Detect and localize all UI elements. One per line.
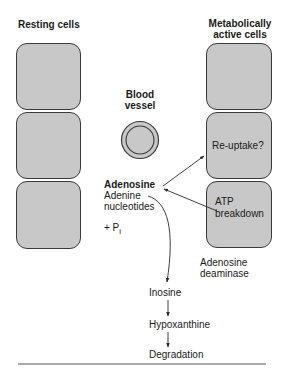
phosphate-label: + Pi: [104, 222, 121, 237]
pathway-inosine: Inosine: [149, 287, 181, 298]
arrow-to-reuptake: [163, 156, 204, 186]
nucleotides-line1: Adenine: [104, 190, 155, 201]
arrow-from-atp-breakdown: [164, 189, 217, 211]
adenosine-label: Adenosine: [104, 179, 155, 190]
enzyme-line2: deaminase: [200, 268, 249, 279]
enzyme-line1: Adenosine: [200, 257, 249, 268]
adenosine-deaminase-label: Adenosine deaminase: [200, 257, 249, 279]
phosphate-subscript: i: [119, 227, 121, 236]
adenine-nucleotides-label: Adenine nucleotides: [104, 190, 155, 212]
nucleotides-line2: nucleotides: [104, 201, 155, 212]
pathway-degradation: Degradation: [149, 349, 203, 360]
phosphate-text: + P: [104, 222, 119, 233]
blood-vessel: [122, 122, 159, 159]
pathway-hypoxanthine: Hypoxanthine: [149, 319, 210, 330]
